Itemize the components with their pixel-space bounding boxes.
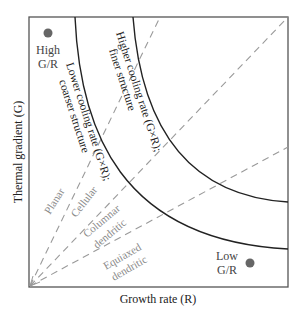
high-gr-label-line2: G/R [38, 57, 58, 71]
y-axis-label: Thermal gradient (G) [11, 101, 25, 204]
high-gr-label-line1: High [36, 43, 60, 57]
x-axis-label: Growth rate (R) [120, 292, 197, 306]
curve-higher-cooling-rate [133, 17, 288, 202]
boundary-cellular-columnar [30, 17, 288, 286]
low-gr-label-line1: Low [216, 249, 238, 263]
solidification-diagram: High G/R Low G/R Lower cooling rate (G×R… [0, 0, 303, 318]
low-gr-label-line2: G/R [217, 263, 237, 277]
region-planar: Planar [42, 186, 67, 216]
low-gr-marker-icon [246, 259, 255, 268]
region-boundaries [30, 17, 288, 286]
high-gr-marker-icon [44, 29, 53, 38]
region-cellular: Cellular [68, 184, 99, 220]
